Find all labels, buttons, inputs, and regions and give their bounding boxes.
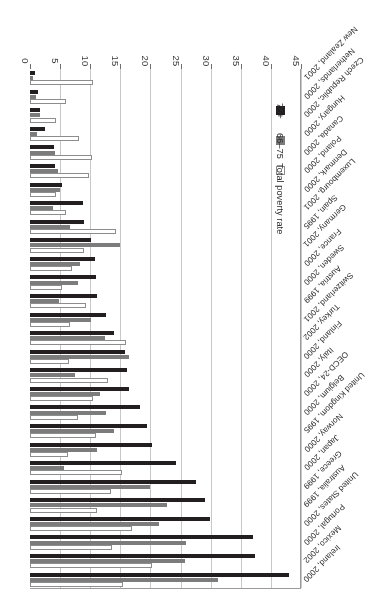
bar-mid (30, 113, 40, 117)
bar-old (30, 183, 62, 187)
tick-label: 10 (80, 46, 91, 76)
bar-total (30, 192, 56, 197)
tick-label: 40 (261, 46, 272, 76)
bar-old (30, 498, 205, 502)
bar-total (30, 322, 70, 327)
bar-mid (30, 373, 75, 377)
bar-group (30, 402, 300, 421)
bar-group (30, 328, 300, 347)
bar-old (30, 145, 54, 149)
bar-mid (30, 318, 91, 322)
bar-mid (30, 299, 60, 303)
bar-group (30, 439, 300, 458)
bar-total (30, 99, 66, 104)
bar-mid (30, 559, 185, 563)
legend-item[interactable]: Total poverty rate (165, 145, 285, 175)
bar-mid (30, 243, 120, 247)
bar-total (30, 470, 122, 475)
chart-rotation-wrapper: percent of age group in total 0510152025… (0, 0, 381, 607)
bar-mid (30, 76, 33, 80)
bar-old (30, 368, 127, 372)
bar-mid (30, 188, 60, 192)
bar-mid (30, 151, 55, 155)
bar-mid (30, 132, 37, 136)
poverty-rate-bar-chart: percent of age group in total 0510152025… (0, 0, 381, 607)
bar-old (30, 517, 210, 521)
tick-label: 15 (110, 46, 121, 76)
bar-old (30, 350, 125, 354)
tick-label: 35 (231, 46, 242, 76)
legend-item[interactable]: 66–75 (165, 115, 285, 145)
bar-group (30, 495, 300, 514)
bar-total (30, 210, 66, 215)
bar-mid (30, 262, 80, 266)
bar-group (30, 458, 300, 477)
bar-total (30, 415, 78, 420)
bar-mid (30, 503, 167, 507)
bar-total (30, 155, 92, 160)
bar-group (30, 421, 300, 440)
bar-old (30, 461, 176, 465)
bar-group (30, 272, 300, 291)
bar-total (30, 248, 84, 253)
bar-old (30, 443, 152, 447)
bar-total (30, 452, 68, 457)
chart-legend: Total poverty rate66–7576+ (165, 85, 285, 175)
bar-mid (30, 336, 105, 340)
bar-total (30, 118, 56, 123)
bar-old (30, 405, 140, 409)
bar-group (30, 569, 300, 588)
bar-old (30, 294, 97, 298)
bar-total (30, 508, 97, 513)
bar-total (30, 173, 89, 178)
legend-item[interactable]: 76+ (165, 85, 285, 115)
bar-total (30, 526, 132, 531)
bar-group (30, 514, 300, 533)
bar-total (30, 266, 72, 271)
bar-total (30, 545, 113, 550)
bar-group (30, 179, 300, 198)
bar-old (30, 313, 106, 317)
bar-old (30, 554, 255, 558)
bar-mid (30, 466, 64, 470)
bar-total (30, 340, 126, 345)
bar-group (30, 198, 300, 217)
bar-old (30, 127, 45, 131)
bar-mid (30, 541, 186, 545)
bar-old (30, 238, 91, 242)
legend-label: 76+ (275, 103, 285, 119)
bar-group (30, 291, 300, 310)
bar-group (30, 551, 300, 570)
bar-group (30, 384, 300, 403)
bar-group (30, 365, 300, 384)
bar-old (30, 331, 114, 335)
bar-group (30, 217, 300, 236)
tick-label: 25 (171, 46, 182, 76)
bar-old (30, 108, 40, 112)
bar-group (30, 68, 300, 87)
category-axis-labels: Ireland, 2000Mexico, 2002Portugal, 2000U… (301, 69, 381, 589)
bar-total (30, 489, 111, 494)
bar-group (30, 309, 300, 328)
bar-mid (30, 281, 78, 285)
bar-total (30, 80, 93, 85)
tick-label: 20 (141, 46, 152, 76)
bar-total (30, 359, 69, 364)
tick-label: 5 (50, 46, 61, 76)
bar-total (30, 229, 116, 234)
bar-old (30, 220, 84, 224)
bar-total (30, 433, 96, 438)
bar-group (30, 532, 300, 551)
tick-label: 0 (20, 46, 31, 76)
bar-mid (30, 429, 114, 433)
bar-mid (30, 225, 70, 229)
bar-mid (30, 392, 100, 396)
tick-label: 30 (201, 46, 212, 76)
bar-old (30, 201, 83, 205)
bar-group (30, 235, 300, 254)
bar-mid (30, 485, 150, 489)
bar-total (30, 303, 86, 308)
bar-mid (30, 95, 36, 99)
bar-total (30, 136, 79, 141)
bar-mid (30, 169, 58, 173)
